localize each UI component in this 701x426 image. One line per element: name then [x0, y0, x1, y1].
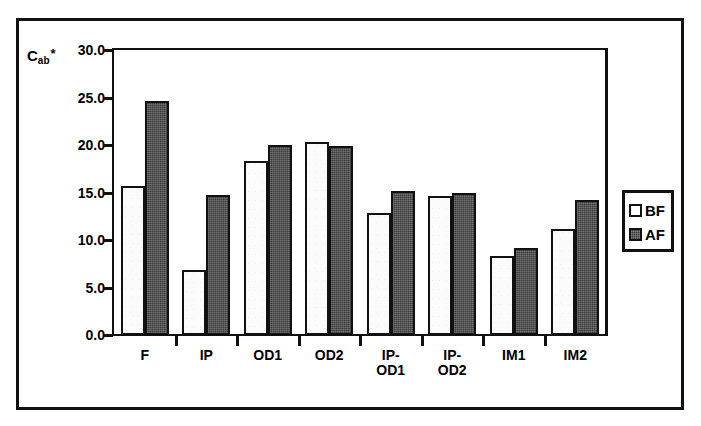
- chart-screenshot: Cab* 30.025.020.015.010.05.00.0 FIPOD1OD…: [0, 0, 701, 426]
- bar-im1-af: [514, 248, 538, 335]
- x-axis-tick-mark: [544, 336, 547, 346]
- x-axis-category-label-f: F: [114, 348, 176, 363]
- x-axis-category-label-ip: IP: [176, 348, 238, 363]
- y-axis-tick-label: 0.0: [55, 328, 105, 342]
- bar-ip-od2-af: [452, 193, 476, 335]
- y-axis-label: Cab*: [27, 47, 56, 66]
- y-axis-tick-label: 10.0: [55, 233, 105, 247]
- x-axis-category-label-ip-od1: IP- OD1: [360, 348, 422, 378]
- bar-ip-od2-bf: [428, 196, 452, 335]
- bar-od2-bf: [305, 142, 329, 335]
- y-axis-label-subscript: ab: [38, 55, 50, 66]
- bar-od2-af: [329, 146, 353, 335]
- y-axis-tick-labels: 30.025.020.015.010.05.00.0: [55, 40, 105, 345]
- bar-im2-af: [575, 200, 599, 335]
- bar-od1-bf: [244, 161, 268, 335]
- x-axis-category-label-im1: IM1: [483, 348, 545, 363]
- bar-ip-bf: [182, 270, 206, 335]
- x-axis-tick-mark: [236, 336, 239, 346]
- bar-chart-figure: Cab* 30.025.020.015.010.05.00.0 FIPOD1OD…: [0, 0, 701, 426]
- x-axis-tick-mark: [482, 336, 485, 346]
- bar-ip-od1-bf: [367, 213, 391, 335]
- legend-item-bf: BF: [629, 198, 671, 222]
- bar-f-af: [145, 101, 169, 335]
- legend-label-af: AF: [645, 227, 665, 242]
- x-axis-category-label-ip-od2: IP- OD2: [422, 348, 484, 378]
- bar-ip-af: [206, 195, 230, 335]
- bar-ip-od1-af: [391, 191, 415, 335]
- legend-swatch-af-icon: [629, 228, 642, 241]
- legend-item-af: AF: [629, 222, 671, 246]
- bar-od1-af: [268, 145, 292, 335]
- bar-im1-bf: [490, 256, 514, 335]
- bar-im2-bf: [551, 229, 575, 335]
- y-axis-tick-label: 20.0: [55, 138, 105, 152]
- bar-f-bf: [121, 186, 145, 335]
- legend-swatch-bf-icon: [629, 204, 642, 217]
- x-axis-category-label-od1: OD1: [237, 348, 299, 363]
- y-axis-tick-label: 30.0: [55, 43, 105, 57]
- x-axis-category-label-im2: IM2: [545, 348, 607, 363]
- y-axis-label-base: C: [27, 47, 38, 64]
- x-axis-tick-mark: [175, 336, 178, 346]
- x-axis-category-label-od2: OD2: [299, 348, 361, 363]
- y-axis-tick-label: 25.0: [55, 91, 105, 105]
- x-axis-tick-mark: [421, 336, 424, 346]
- bars-layer: [114, 50, 606, 335]
- x-axis-tick-mark: [359, 336, 362, 346]
- y-axis-tick-label: 5.0: [55, 281, 105, 295]
- y-axis-tick-label: 15.0: [55, 186, 105, 200]
- legend-label-bf: BF: [645, 203, 665, 218]
- x-axis-tick-mark: [298, 336, 301, 346]
- legend-box: BF AF: [622, 190, 674, 252]
